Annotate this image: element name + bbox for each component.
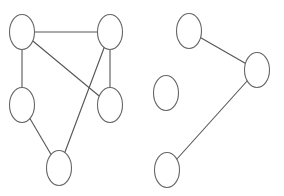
node-A: [10, 15, 35, 50]
node-I: [155, 153, 180, 188]
node-H: [154, 76, 179, 111]
node-D: [98, 88, 123, 123]
node-G: [245, 53, 270, 88]
node-C: [10, 88, 35, 123]
edge-G-I: [167, 70, 257, 170]
edges-layer: [22, 31, 257, 170]
node-F: [177, 14, 202, 49]
node-B: [98, 15, 123, 50]
nodes-layer: [10, 14, 270, 188]
graph-diagram: [0, 0, 284, 196]
node-E: [47, 151, 72, 186]
